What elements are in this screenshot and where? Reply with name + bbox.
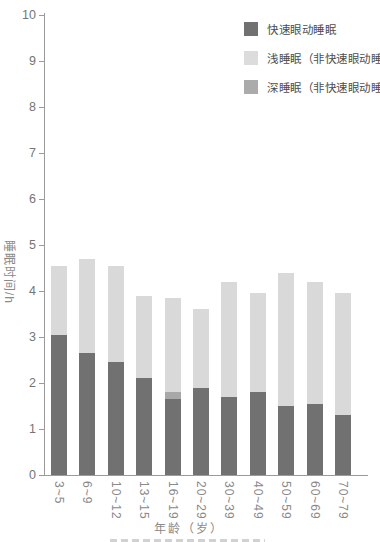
bar-segment [278,406,294,475]
y-tick-mark [39,107,44,108]
x-tick-label: 16~19 [165,481,181,520]
y-tick-label: 2 [6,376,36,390]
y-axis-line [44,13,45,476]
y-tick-mark [39,15,44,16]
y-tick-mark [39,199,44,200]
x-tick-label: 40~49 [250,481,266,520]
x-tick-label-text: 40~49 [251,481,265,520]
x-tick-label: 50~59 [278,481,294,520]
bar-segment [108,362,124,475]
legend: 快速眼动睡眠浅睡眠（非快速眼动睡眠）深睡眠（非快速眼动睡眠） [244,22,380,109]
legend-label: 浅睡眠（非快速眼动睡眠） [267,50,380,66]
x-tick-label-text: 70~79 [336,481,350,520]
y-tick-mark [39,475,44,476]
y-tick-mark [39,291,44,292]
x-axis-title: 年龄（岁） [44,519,334,536]
legend-item: 快速眼动睡眠 [244,22,380,36]
y-tick-label: 10 [6,8,36,22]
bar-segment [51,335,67,475]
y-tick-mark [39,429,44,430]
x-tick-label-text: 50~59 [279,481,293,520]
x-tick-label-text: 60~69 [308,481,322,520]
y-tick-mark [39,383,44,384]
legend-label: 深睡眠（非快速眼动睡眠） [267,79,380,95]
bar-segment [193,388,209,475]
y-tick-mark [39,153,44,154]
y-tick-mark [39,61,44,62]
x-tick-label: 13~15 [136,481,152,520]
x-tick-label: 3~5 [51,481,67,504]
y-tick-label: 0 [6,468,36,482]
legend-swatch [244,80,258,94]
legend-item: 深睡眠（非快速眼动睡眠） [244,80,380,94]
x-tick-label-text: 13~15 [137,481,151,520]
bar-segment [136,378,152,475]
x-axis-line [44,475,368,476]
bar-segment [335,415,351,475]
legend-swatch [244,22,258,36]
x-tick-label: 60~69 [307,481,323,520]
x-tick-label: 70~79 [335,481,351,520]
y-tick-label: 9 [6,54,36,68]
y-tick-mark [39,245,44,246]
x-tick-label-text: 3~5 [52,481,66,504]
bar-segment [165,399,181,475]
x-tick-label-text: 30~39 [222,481,236,520]
bar-segment [221,397,237,475]
x-tick-label: 30~39 [221,481,237,520]
bar-segment [307,404,323,475]
x-tick-label: 20~29 [193,481,209,520]
legend-label: 快速眼动睡眠 [267,21,336,37]
x-tick-label-text: 20~29 [194,481,208,520]
bar-segment [250,392,266,475]
y-axis-title: 睡眠时间/h [2,240,19,350]
y-tick-label: 1 [6,422,36,436]
y-tick-label: 6 [6,192,36,206]
x-tick-label-text: 16~19 [166,481,180,520]
y-tick-mark [39,337,44,338]
x-tick-label-text: 6~9 [80,481,94,504]
x-tick-label: 10~12 [108,481,124,520]
y-tick-label: 8 [6,100,36,114]
x-tick-label-text: 10~12 [109,481,123,520]
legend-item: 浅睡眠（非快速眼动睡眠） [244,51,380,65]
stacked-bar-chart: 012345678910 3~56~910~1213~1516~1920~293… [0,0,380,542]
x-tick-label: 6~9 [79,481,95,504]
legend-swatch [244,51,258,65]
y-tick-label: 7 [6,146,36,160]
bar-segment [79,353,95,475]
